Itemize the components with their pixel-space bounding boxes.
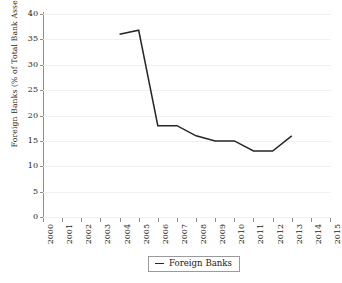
line-chart: Foreign Banks (% of Total Bank Assets) 0… xyxy=(0,0,342,283)
x-axis-tick-label: 2011 xyxy=(257,224,265,244)
x-axis-tick xyxy=(273,218,274,222)
plot-area xyxy=(43,14,331,217)
x-axis-tick-label: 2001 xyxy=(66,224,74,244)
y-axis-tick-label: 25 xyxy=(12,86,38,94)
series-line xyxy=(120,30,292,151)
x-axis-tick xyxy=(234,218,235,222)
x-axis-tick-label: 2010 xyxy=(238,224,246,244)
y-axis-tick-label: 30 xyxy=(12,61,38,69)
y-axis-tick-label: 10 xyxy=(12,162,38,170)
x-axis-tick xyxy=(196,218,197,222)
x-axis-tick xyxy=(215,218,216,222)
x-axis-tick xyxy=(100,218,101,222)
chart-legend: Foreign Banks xyxy=(148,256,240,272)
x-axis-tick xyxy=(330,218,331,222)
x-axis-tick-label: 2015 xyxy=(334,224,342,244)
x-axis-tick xyxy=(81,218,82,222)
x-axis-tick-label: 2009 xyxy=(219,224,227,244)
x-axis-tick-label: 2008 xyxy=(200,224,208,244)
x-axis-tick xyxy=(177,218,178,222)
x-axis-tick-label: 2000 xyxy=(47,224,55,244)
x-axis-tick xyxy=(120,218,121,222)
x-axis-tick-label: 2005 xyxy=(143,224,151,244)
x-axis-tick xyxy=(158,218,159,222)
x-axis-tick xyxy=(139,218,140,222)
x-axis-tick xyxy=(253,218,254,222)
x-axis-tick xyxy=(43,218,44,222)
x-axis-tick-label: 2014 xyxy=(315,224,323,244)
y-axis-tick-label: 5 xyxy=(12,188,38,196)
y-axis-tick-label: 40 xyxy=(12,10,38,18)
legend-item-label: Foreign Banks xyxy=(169,259,232,268)
x-axis-tick-label: 2002 xyxy=(85,224,93,244)
y-axis-tick-label: 0 xyxy=(12,213,38,221)
x-axis-tick xyxy=(292,218,293,222)
legend-dash-icon xyxy=(155,263,164,265)
series-foreign-banks xyxy=(43,14,331,217)
y-axis-tick-label: 20 xyxy=(12,112,38,120)
y-axis-tick-label: 15 xyxy=(12,137,38,145)
x-axis-tick-label: 2006 xyxy=(162,224,170,244)
x-axis-tick-label: 2007 xyxy=(181,224,189,244)
x-axis-tick xyxy=(62,218,63,222)
x-axis-tick-label: 2012 xyxy=(277,224,285,244)
x-axis-tick-label: 2013 xyxy=(296,224,304,244)
x-axis-tick xyxy=(311,218,312,222)
x-axis-tick-label: 2004 xyxy=(124,224,132,244)
x-axis-tick-label: 2003 xyxy=(104,224,112,244)
y-axis-tick-label: 35 xyxy=(12,35,38,43)
